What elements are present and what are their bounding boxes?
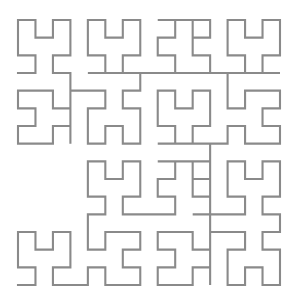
figure-background	[0, 0, 295, 300]
hilbert-curve-figure	[0, 0, 295, 300]
